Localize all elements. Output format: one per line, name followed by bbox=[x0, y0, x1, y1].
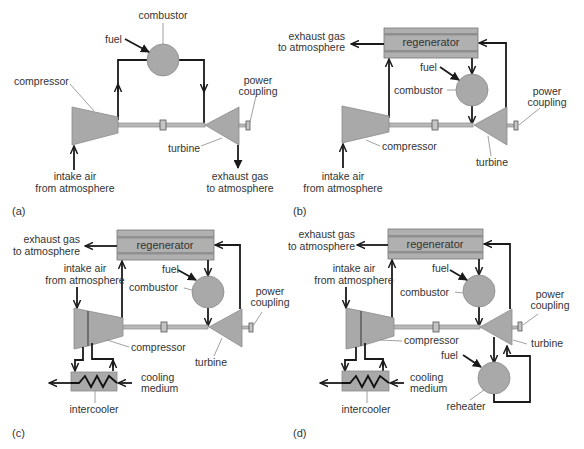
panel-c: regenerator bbox=[12, 230, 290, 439]
panel-a: combustor fuel compressor power coupling… bbox=[12, 9, 278, 217]
power-coupling-leader bbox=[519, 108, 540, 125]
regenerator-label: regenerator bbox=[403, 36, 460, 48]
intercooler-label: intercooler bbox=[69, 403, 119, 415]
intake-label-2: from atmosphere bbox=[314, 274, 394, 286]
reheater-fuel-label: fuel bbox=[441, 349, 458, 361]
turbine bbox=[205, 107, 239, 145]
compressor-low-pressure-stage bbox=[74, 308, 88, 349]
compressor bbox=[342, 106, 389, 143]
power-coupling-leader bbox=[523, 314, 538, 325]
compressor-low-pressure-stage bbox=[346, 308, 361, 349]
coupling-label: coupling bbox=[250, 296, 289, 308]
panel-label-c: (c) bbox=[12, 427, 25, 439]
fuel-label: fuel bbox=[420, 61, 437, 73]
shaft bbox=[389, 123, 473, 127]
turbine-leader bbox=[513, 340, 527, 344]
power-coupling bbox=[249, 323, 253, 332]
intake-label-1: intake air bbox=[54, 170, 97, 182]
gas-turbine-cycle-diagrams: combustor fuel compressor power coupling… bbox=[0, 0, 584, 449]
compressor-label: compressor bbox=[382, 140, 437, 152]
turbine-label: turbine bbox=[476, 156, 508, 168]
intake-label-1: intake air bbox=[322, 170, 365, 182]
power-coupling-leader bbox=[253, 312, 262, 326]
coupling-label: coupling bbox=[238, 85, 277, 97]
compressor-label: compressor bbox=[131, 341, 186, 353]
combustor-label: combustor bbox=[138, 9, 188, 21]
compressor-label: compressor bbox=[404, 334, 459, 346]
compressor-high-pressure-stage bbox=[88, 311, 123, 346]
exhaust-label-2: to atmosphere bbox=[288, 240, 355, 252]
compressor-leader bbox=[366, 140, 380, 146]
turbine-label: turbine bbox=[168, 142, 200, 154]
power-coupling bbox=[514, 121, 518, 130]
reheater-leader bbox=[470, 390, 484, 400]
compressor bbox=[72, 107, 118, 145]
intercooler-to-compressor-pipe bbox=[365, 343, 383, 371]
regenerator-band-bottom bbox=[117, 252, 214, 255]
turbine bbox=[474, 107, 507, 145]
coupling-label: coupling bbox=[530, 299, 569, 311]
regenerator-label: regenerator bbox=[137, 239, 194, 251]
panel-label-d: (d) bbox=[293, 427, 306, 439]
turbine-label: turbine bbox=[531, 337, 563, 349]
fuel-arrow bbox=[450, 270, 467, 280]
panel-b: regenerator exhaust gas to atmosphere fu… bbox=[278, 28, 567, 217]
turbine-leader bbox=[488, 136, 491, 156]
intake-label-1: intake air bbox=[333, 262, 376, 274]
fuel-arrow bbox=[178, 270, 196, 280]
shaft-coupling bbox=[433, 322, 439, 332]
fuel-label: fuel bbox=[162, 263, 179, 275]
reheater bbox=[478, 362, 510, 394]
exhaust-label-1: exhaust gas bbox=[298, 228, 355, 240]
combustor bbox=[192, 276, 224, 308]
fuel-label: fuel bbox=[105, 33, 122, 45]
exhaust-label-1: exhaust gas bbox=[23, 233, 80, 245]
exhaust-label-2: to atmosphere bbox=[13, 245, 80, 257]
fuel-label: fuel bbox=[432, 262, 449, 274]
intercooler-to-compressor-pipe bbox=[92, 343, 113, 371]
cooling-label-2: medium bbox=[410, 382, 448, 394]
combustor-to-turbine-pipe bbox=[179, 60, 204, 125]
fuel-arrow bbox=[440, 67, 459, 80]
combustor-label: combustor bbox=[129, 281, 179, 293]
cooling-label-2: medium bbox=[141, 382, 179, 394]
intake-label-2: from atmosphere bbox=[35, 182, 115, 194]
power-coupling bbox=[246, 121, 250, 130]
compressor-to-combustor-pipe bbox=[118, 60, 147, 120]
reheater-label: reheater bbox=[446, 400, 486, 412]
power-coupling bbox=[518, 322, 522, 331]
combustor-label: combustor bbox=[400, 286, 450, 298]
shaft-coupling bbox=[160, 120, 166, 130]
panel-label-a: (a) bbox=[12, 205, 25, 217]
reheater-fuel-arrow bbox=[463, 355, 481, 367]
regenerator-band-bottom bbox=[384, 50, 478, 53]
intake-label-1: intake air bbox=[64, 262, 107, 274]
regenerator-band-bottom bbox=[388, 251, 483, 254]
intercooler-label: intercooler bbox=[341, 403, 391, 415]
exhaust-label-2: to atmosphere bbox=[278, 41, 345, 53]
shaft-coupling bbox=[161, 322, 167, 332]
fuel-arrow bbox=[125, 39, 149, 52]
exhaust-label-1: exhaust gas bbox=[212, 170, 269, 182]
compressor-label: compressor bbox=[14, 75, 69, 87]
panel-label-b: (b) bbox=[293, 205, 306, 217]
shaft-coupling bbox=[432, 120, 438, 130]
turbine-leader bbox=[201, 138, 222, 146]
turbine bbox=[480, 309, 512, 345]
panel-d: regenerator bbox=[288, 228, 570, 439]
turbine-leader bbox=[214, 338, 222, 356]
turbine-label: turbine bbox=[195, 356, 227, 368]
regenerator-label: regenerator bbox=[407, 238, 464, 250]
coupling-label: coupling bbox=[527, 96, 566, 108]
compressor-to-intercooler-pipe bbox=[75, 347, 83, 371]
compressor-leader bbox=[380, 340, 402, 341]
combustor bbox=[456, 74, 488, 106]
compressor-to-intercooler-pipe bbox=[345, 347, 356, 371]
combustor bbox=[147, 44, 179, 76]
combustor-leader bbox=[184, 288, 192, 290]
intake-label-2: from atmosphere bbox=[45, 274, 125, 286]
intake-label-2: from atmosphere bbox=[303, 182, 383, 194]
combustor-label: combustor bbox=[394, 84, 444, 96]
turbine bbox=[209, 309, 242, 347]
combustor bbox=[463, 275, 495, 307]
